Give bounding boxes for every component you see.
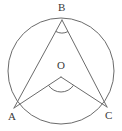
vertex-label-o: O	[57, 60, 65, 71]
segment-OC	[61, 77, 107, 107]
vertex-label-b: B	[58, 2, 65, 13]
segment-BC	[62, 20, 107, 107]
vertex-label-c: C	[105, 110, 112, 121]
angle-mark-ABC	[56, 31, 68, 33]
segment-BA	[14, 20, 62, 108]
angle-mark-AOC	[48, 85, 73, 92]
main-circle	[8, 18, 114, 124]
circle-geometry-diagram: B O A C	[0, 0, 122, 131]
vertex-label-a: A	[8, 111, 16, 122]
segment-OA	[14, 77, 61, 108]
